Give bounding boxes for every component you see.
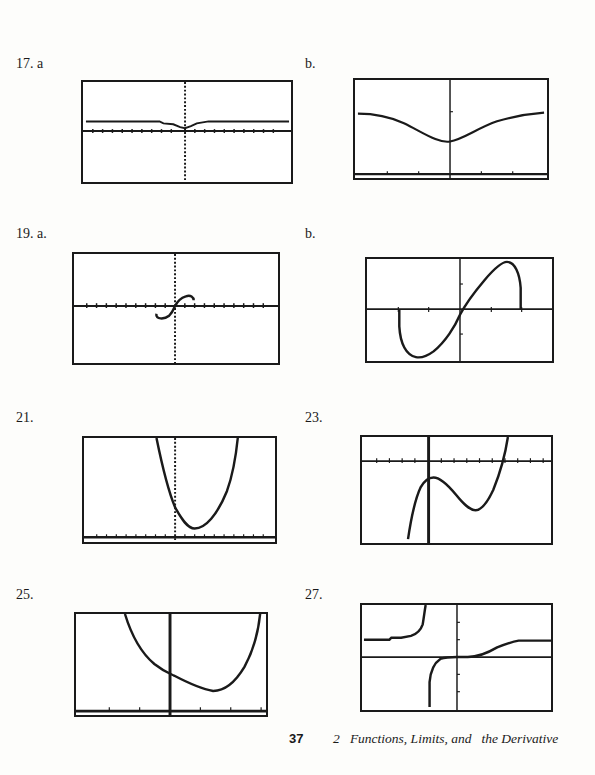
graph-17b — [353, 78, 549, 180]
graph-17a — [81, 80, 293, 184]
problem-label-17a: 17. a — [16, 56, 43, 72]
problem-label-21: 21. — [16, 410, 34, 426]
graph-23 — [360, 435, 553, 545]
problem-label-19a: 19. a. — [16, 226, 47, 242]
graph-25 — [74, 612, 268, 717]
graph-19b — [365, 257, 554, 363]
problem-label-23: 23. — [305, 410, 323, 426]
problem-label-17b: b. — [305, 56, 316, 72]
problem-label-27: 27. — [305, 587, 323, 603]
chapter-title: 2 Functions, Limits, and the Derivative — [333, 731, 558, 747]
graph-19a — [72, 252, 280, 365]
problem-label-19b: b. — [305, 226, 316, 242]
graph-27 — [360, 603, 553, 712]
problem-label-25: 25. — [16, 587, 34, 603]
graph-21 — [82, 436, 277, 544]
page-number: 37 — [289, 731, 303, 746]
